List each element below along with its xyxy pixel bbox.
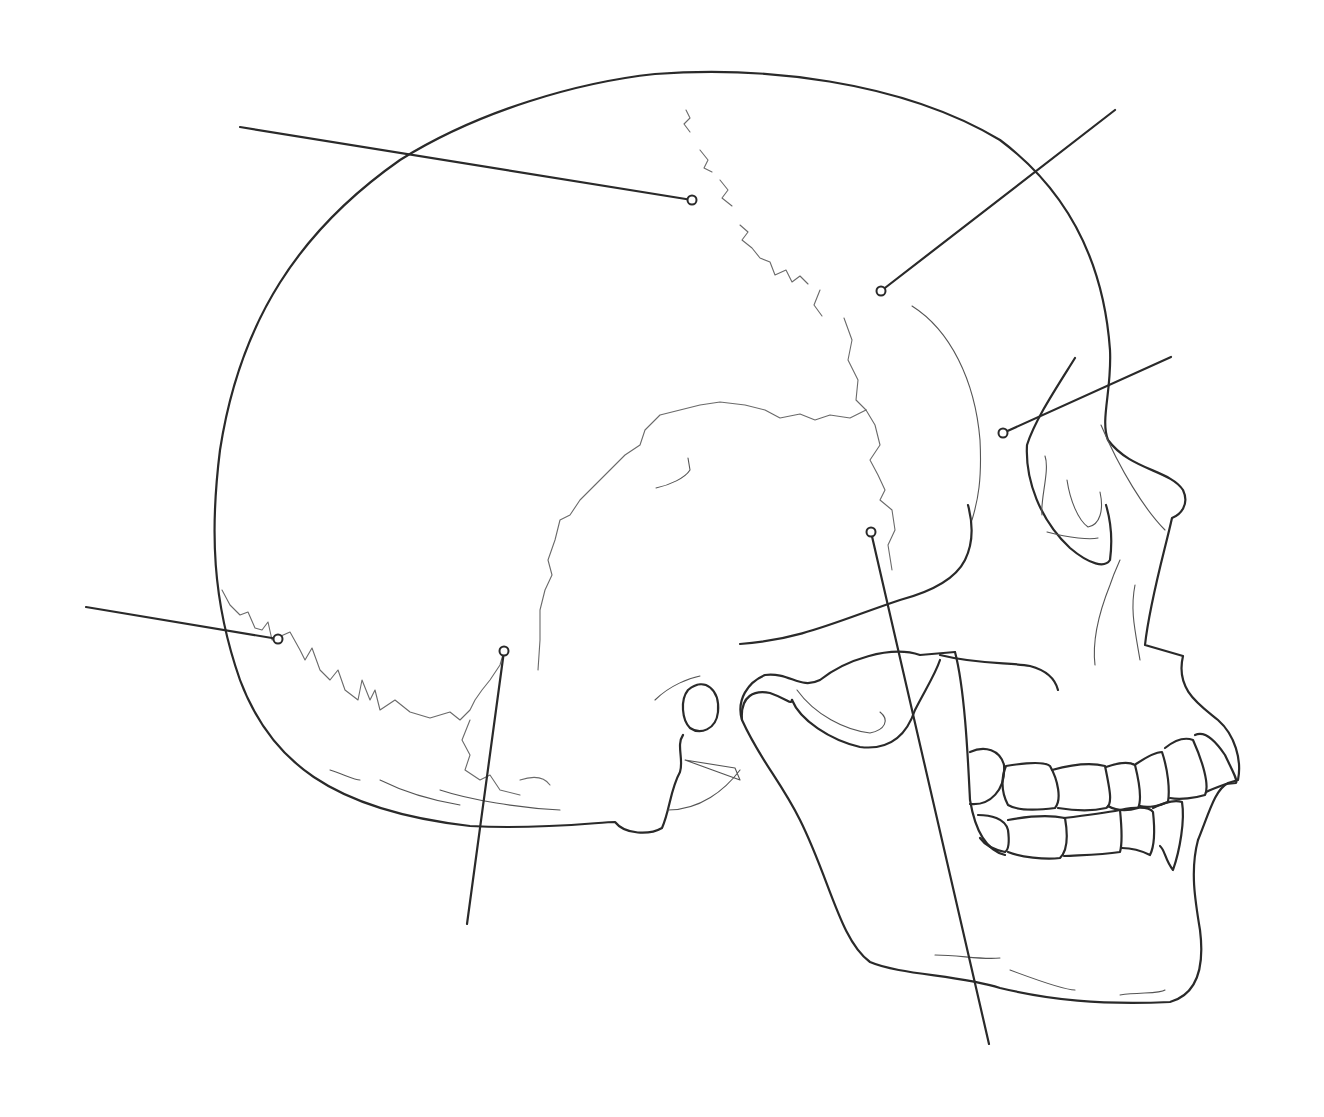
pointer-circle-icon (274, 635, 283, 644)
leader-4 (86, 607, 283, 644)
leader-3 (999, 357, 1172, 438)
maxilla-detail (1094, 560, 1140, 665)
leader-lines (86, 110, 1171, 1044)
temporal-line (912, 306, 981, 520)
pointer-circle-icon (688, 196, 697, 205)
external-acoustic-meatus (683, 684, 718, 731)
upper-teeth (970, 734, 1236, 811)
pointer-circle-icon (500, 647, 509, 656)
lower-teeth (978, 801, 1183, 870)
skull-diagram (0, 0, 1324, 1117)
pointer-circle-icon (877, 287, 886, 296)
leader-line (240, 127, 692, 200)
mastoid-detail (655, 676, 740, 810)
nasal-line (1101, 425, 1165, 530)
leader-1 (240, 127, 697, 205)
sphenoparietal-suture (866, 410, 895, 570)
lambdoid-suture (222, 590, 504, 720)
coronoid-inner (797, 690, 885, 733)
pointer-circle-icon (867, 528, 876, 537)
cranium-outline (215, 72, 1240, 1003)
zygomatic-arch (740, 505, 972, 644)
leader-line (86, 607, 278, 639)
leader-line (1003, 357, 1171, 433)
leader-line (881, 110, 1115, 291)
temporal-ridge-detail (656, 458, 690, 488)
leader-5 (467, 647, 509, 925)
occipital-detail (330, 770, 560, 810)
coronal-suture (684, 110, 866, 410)
occipitomastoid-suture (462, 720, 550, 795)
condyle-outline (742, 692, 792, 720)
pointer-circle-icon (999, 429, 1008, 438)
